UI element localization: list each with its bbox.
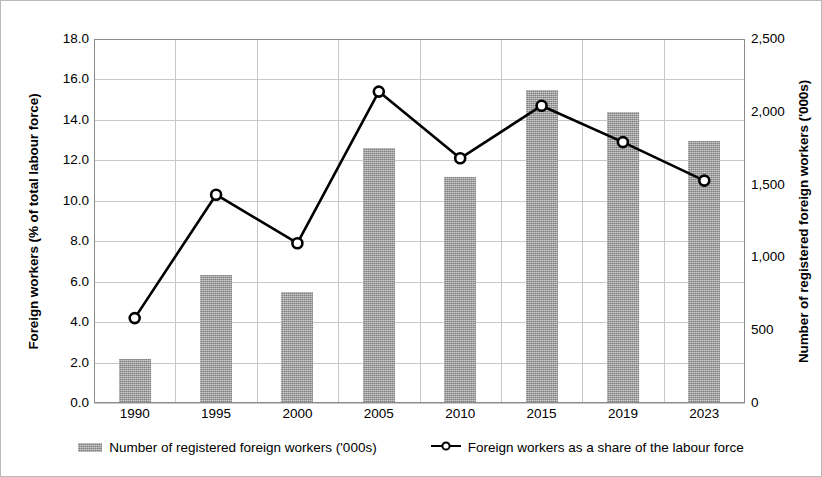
line-marker bbox=[618, 137, 628, 147]
left-tick-label: 16.0 bbox=[63, 72, 89, 86]
right-axis-title: Number of registered foreign workers ('0… bbox=[796, 57, 811, 387]
line-series bbox=[94, 39, 745, 403]
chart-figure: Foreign workers (% of total labour force… bbox=[0, 0, 822, 477]
legend-item-bars: Number of registered foreign workers ('0… bbox=[78, 440, 376, 455]
left-axis-title: Foreign workers (% of total labour force… bbox=[26, 57, 41, 387]
left-axis-tick-labels: 0.02.04.06.08.010.012.014.016.018.0 bbox=[43, 1, 89, 477]
line-path bbox=[135, 92, 705, 319]
left-tick-label: 18.0 bbox=[63, 32, 89, 46]
x-tick-label: 2005 bbox=[338, 407, 419, 421]
left-tick-label: 12.0 bbox=[63, 153, 89, 167]
x-tick-label: 2015 bbox=[501, 407, 582, 421]
legend-label-bars: Number of registered foreign workers ('0… bbox=[109, 440, 376, 455]
line-marker bbox=[211, 190, 221, 200]
left-tick-label: 10.0 bbox=[63, 194, 89, 208]
x-tick-label: 2023 bbox=[664, 407, 745, 421]
plot-area bbox=[94, 39, 745, 403]
bar-swatch-icon bbox=[78, 443, 102, 452]
line-marker bbox=[292, 238, 302, 248]
line-marker bbox=[699, 176, 709, 186]
x-tick-label: 1990 bbox=[94, 407, 175, 421]
left-tick-label: 2.0 bbox=[70, 356, 89, 370]
right-tick-label: 1,500 bbox=[751, 178, 785, 192]
left-tick-label: 0.0 bbox=[70, 396, 89, 410]
left-tick-label: 8.0 bbox=[70, 234, 89, 248]
x-tick-label: 2000 bbox=[257, 407, 338, 421]
x-tick-label: 2010 bbox=[420, 407, 501, 421]
left-tick-label: 14.0 bbox=[63, 113, 89, 127]
line-open-circle-icon bbox=[431, 438, 461, 456]
right-tick-label: 2,000 bbox=[751, 105, 785, 119]
gridline-horizontal bbox=[94, 403, 745, 404]
right-tick-label: 500 bbox=[751, 323, 774, 337]
line-marker bbox=[374, 87, 384, 97]
left-tick-label: 4.0 bbox=[70, 315, 89, 329]
line-marker bbox=[130, 313, 140, 323]
line-marker bbox=[537, 101, 547, 111]
left-tick-label: 6.0 bbox=[70, 275, 89, 289]
x-tick-label: 1995 bbox=[175, 407, 256, 421]
line-marker bbox=[455, 153, 465, 163]
right-tick-label: 1,000 bbox=[751, 250, 785, 264]
chart-legend: Number of registered foreign workers ('0… bbox=[1, 438, 821, 456]
right-tick-label: 2,500 bbox=[751, 32, 785, 46]
legend-item-line: Foreign workers as a share of the labour… bbox=[431, 438, 744, 456]
x-axis-tick-labels: 19901995200020052010201520192023 bbox=[94, 407, 745, 431]
right-axis-tick-labels: 05001,0001,5002,0002,500 bbox=[751, 1, 797, 477]
x-tick-label: 2019 bbox=[582, 407, 663, 421]
legend-label-line: Foreign workers as a share of the labour… bbox=[468, 440, 744, 455]
right-tick-label: 0 bbox=[751, 396, 759, 410]
